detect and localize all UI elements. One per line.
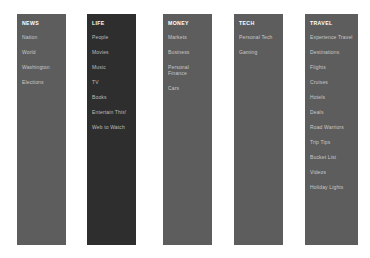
- nav-list-travel: Experience Travel Destinations Flights C…: [310, 34, 353, 190]
- nav-item-people[interactable]: People: [92, 34, 131, 40]
- nav-column-news: NEWS Nation World Washington Elections: [17, 14, 66, 245]
- nav-item-music[interactable]: Music: [92, 64, 131, 70]
- nav-item-world[interactable]: World: [22, 49, 61, 55]
- nav-list-news: Nation World Washington Elections: [22, 34, 61, 85]
- nav-column-heading-money: MONEY: [168, 20, 207, 27]
- nav-column-heading-life: LIFE: [92, 20, 131, 27]
- nav-item-books[interactable]: Books: [92, 94, 131, 100]
- nav-item-cruises[interactable]: Cruises: [310, 79, 353, 85]
- nav-list-tech: Personal Tech Gaming: [239, 34, 278, 55]
- nav-list-life: People Movies Music TV Books Entertain T…: [92, 34, 131, 130]
- navigation-menu: NEWS Nation World Washington Elections L…: [0, 0, 370, 258]
- nav-column-heading-tech: TECH: [239, 20, 278, 27]
- nav-column-life: LIFE People Movies Music TV Books Entert…: [87, 14, 136, 245]
- nav-item-movies[interactable]: Movies: [92, 49, 131, 55]
- nav-item-videos[interactable]: Videos: [310, 169, 353, 175]
- nav-item-road-warriors[interactable]: Road Warriors: [310, 124, 353, 130]
- nav-item-trip-tips[interactable]: Trip Tips: [310, 139, 353, 145]
- nav-item-experience-travel[interactable]: Experience Travel: [310, 34, 353, 40]
- nav-item-deals[interactable]: Deals: [310, 109, 353, 115]
- nav-item-flights[interactable]: Flights: [310, 64, 353, 70]
- nav-column-money: MONEY Markets Business Personal Finance …: [163, 14, 212, 245]
- nav-column-heading-news: NEWS: [22, 20, 61, 27]
- nav-item-destinations[interactable]: Destinations: [310, 49, 353, 55]
- nav-column-tech: TECH Personal Tech Gaming: [234, 14, 283, 245]
- nav-item-entertain-this[interactable]: Entertain This!: [92, 109, 131, 115]
- nav-item-gaming[interactable]: Gaming: [239, 49, 278, 55]
- nav-item-markets[interactable]: Markets: [168, 34, 207, 40]
- nav-item-tv[interactable]: TV: [92, 79, 131, 85]
- nav-item-personal-tech[interactable]: Personal Tech: [239, 34, 278, 40]
- nav-item-elections[interactable]: Elections: [22, 79, 61, 85]
- nav-column-travel: TRAVEL Experience Travel Destinations Fl…: [305, 14, 358, 245]
- nav-item-business[interactable]: Business: [168, 49, 207, 55]
- nav-item-cars[interactable]: Cars: [168, 85, 207, 91]
- nav-list-money: Markets Business Personal Finance Cars: [168, 34, 207, 92]
- nav-item-washington[interactable]: Washington: [22, 64, 61, 70]
- nav-item-web-to-watch[interactable]: Web to Watch: [92, 124, 131, 130]
- nav-item-holiday-lights[interactable]: Holiday Lights: [310, 184, 353, 190]
- nav-column-heading-travel: TRAVEL: [310, 20, 353, 27]
- nav-item-personal-finance[interactable]: Personal Finance: [168, 64, 207, 77]
- nav-item-hotels[interactable]: Hotels: [310, 94, 353, 100]
- nav-item-bucket-list[interactable]: Bucket List: [310, 154, 353, 160]
- nav-item-nation[interactable]: Nation: [22, 34, 61, 40]
